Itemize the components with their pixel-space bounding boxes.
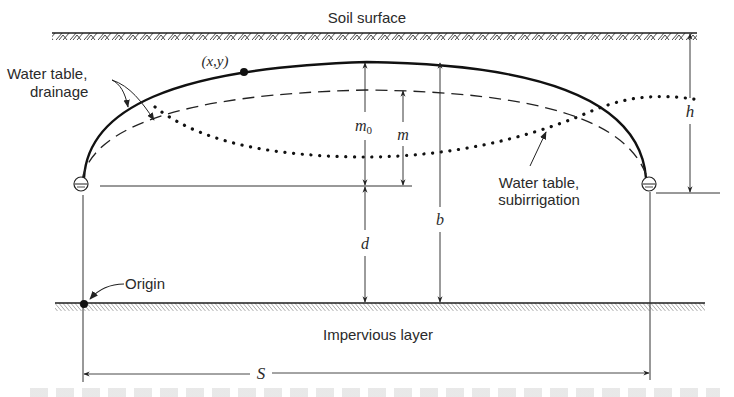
water-table-drainage-label-1: Water table,: [7, 65, 87, 82]
origin-arrow: [90, 284, 124, 299]
subirrigation-pointer: [530, 132, 546, 166]
cropped-caption-strip: [30, 388, 720, 397]
m0-label-main: m: [355, 117, 367, 134]
m0-label-subscript: 0: [367, 124, 373, 136]
soil-surface-label: Soil surface: [328, 9, 406, 26]
water-table-drainage-label-2: drainage: [30, 83, 88, 100]
h-label: h: [686, 102, 695, 121]
b-label: b: [436, 211, 444, 228]
impervious-layer-label: Impervious layer: [323, 326, 433, 343]
d-label: d: [361, 235, 370, 252]
water-table-subirrigation-dotted: [155, 97, 700, 157]
origin-label: Origin: [125, 275, 165, 292]
point-xy-label: (x,y): [201, 53, 228, 70]
impervious-layer: [55, 303, 705, 311]
right-drain-icon: [642, 177, 656, 191]
left-drain-icon: [74, 177, 88, 191]
drainage-diagram: Soil surface Impervious layer (x,y) Orig…: [0, 0, 734, 397]
water-table-subirrigation-label-2: subirrigation: [498, 191, 580, 208]
s-label: S: [257, 364, 266, 383]
m0-label: m0: [355, 117, 373, 136]
origin-marker: [80, 300, 88, 308]
soil-surface: [52, 33, 697, 40]
point-xy-marker: [240, 68, 248, 76]
m-label: m: [397, 126, 409, 143]
water-table-subirrigation-label-1: Water table,: [499, 174, 579, 191]
